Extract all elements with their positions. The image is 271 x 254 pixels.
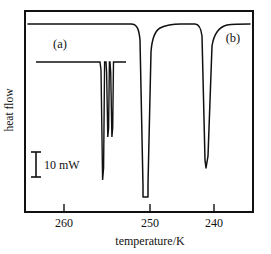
dsc-thermogram-figure: 260 250 240 temperature/K heat flow (a) …	[0, 0, 271, 254]
trace-b-label: (b)	[226, 31, 241, 45]
x-tick-labels: 260 250 240	[55, 216, 223, 230]
x-axis-ticks	[64, 204, 214, 212]
y-axis-title: heat flow	[3, 88, 15, 132]
x-tick-label-240: 240	[205, 216, 223, 230]
figure-container: 260 250 240 temperature/K heat flow (a) …	[0, 0, 271, 254]
x-tick-label-260: 260	[55, 216, 73, 230]
x-axis-title: temperature/K	[115, 234, 185, 248]
scale-bar-label: 10 mW	[44, 158, 80, 172]
x-tick-label-250: 250	[141, 216, 159, 230]
trace-a-label: (a)	[53, 37, 67, 51]
scale-bar: 10 mW	[31, 152, 80, 177]
